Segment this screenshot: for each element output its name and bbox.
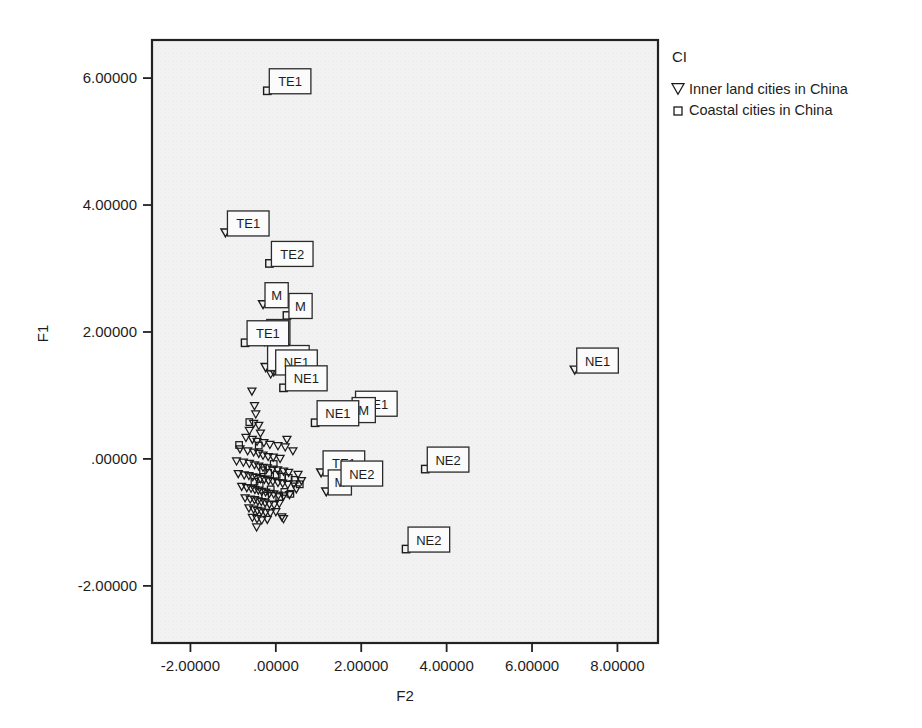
point-label-text: TE1 bbox=[256, 326, 280, 341]
point-label-text: M bbox=[295, 299, 306, 314]
point-label-text: NE1 bbox=[294, 371, 319, 386]
point-label-text: M bbox=[271, 288, 282, 303]
point-label-callout: NE1 bbox=[286, 366, 328, 391]
point-label-callout: TE1 bbox=[269, 69, 311, 94]
legend-title: CI bbox=[672, 48, 687, 65]
y-tick-label: 4.00000 bbox=[83, 196, 137, 213]
point-label-callout: TE1 bbox=[227, 211, 269, 236]
x-tick-label: 6.00000 bbox=[505, 657, 559, 674]
point-label-callout: TE2 bbox=[271, 241, 313, 266]
point-label-callout: M bbox=[289, 293, 312, 318]
y-tick-label: .00000 bbox=[91, 450, 137, 467]
legend-item-label: Inner land cities in China bbox=[689, 81, 849, 97]
point-label-text: TE1 bbox=[236, 216, 260, 231]
x-tick-label: 4.00000 bbox=[420, 657, 474, 674]
point-label-text: NE1 bbox=[325, 406, 350, 421]
point-label-callout: NE2 bbox=[341, 461, 383, 486]
y-tick-label: 2.00000 bbox=[83, 323, 137, 340]
point-label-text: NE2 bbox=[416, 533, 441, 548]
y-tick-label: 6.00000 bbox=[83, 69, 137, 86]
point-label-callout: NE2 bbox=[408, 527, 450, 552]
point-label-text: NE2 bbox=[349, 467, 374, 482]
point-label-text: TE1 bbox=[278, 74, 302, 89]
x-tick-label: 2.00000 bbox=[334, 657, 388, 674]
point-label-text: TE2 bbox=[280, 247, 304, 262]
point-label-callout: TE1 bbox=[247, 321, 289, 346]
x-tick-label: 8.00000 bbox=[590, 657, 644, 674]
plot-canvas[interactable]: -2.00000.000002.000004.000006.000008.000… bbox=[0, 0, 922, 728]
scatter-plot-figure: -2.00000.000002.000004.000006.000008.000… bbox=[0, 0, 922, 728]
point-label-text: M bbox=[358, 403, 369, 418]
point-label-text: NE1 bbox=[585, 354, 610, 369]
x-tick-label: .00000 bbox=[253, 657, 299, 674]
legend-item-label: Coastal cities in China bbox=[689, 102, 833, 118]
point-label-text: NE2 bbox=[435, 453, 460, 468]
x-axis-title: F2 bbox=[396, 687, 414, 704]
x-tick-label: -2.00000 bbox=[161, 657, 220, 674]
square-icon bbox=[674, 107, 682, 115]
triangle-down-icon bbox=[672, 84, 684, 95]
point-label-callout: NE1 bbox=[577, 348, 619, 373]
point-label-callout: NE2 bbox=[427, 447, 469, 472]
point-label-callout: NE1 bbox=[317, 401, 359, 426]
y-tick-label: -2.00000 bbox=[78, 577, 137, 594]
legend[interactable]: CIInner land cities in ChinaCoastal citi… bbox=[672, 48, 849, 118]
point-label-callout: M bbox=[265, 283, 288, 308]
legend-item-coastal[interactable]: Coastal cities in China bbox=[674, 102, 833, 118]
y-axis-title: F1 bbox=[34, 325, 51, 343]
legend-item-inner[interactable]: Inner land cities in China bbox=[672, 81, 849, 97]
